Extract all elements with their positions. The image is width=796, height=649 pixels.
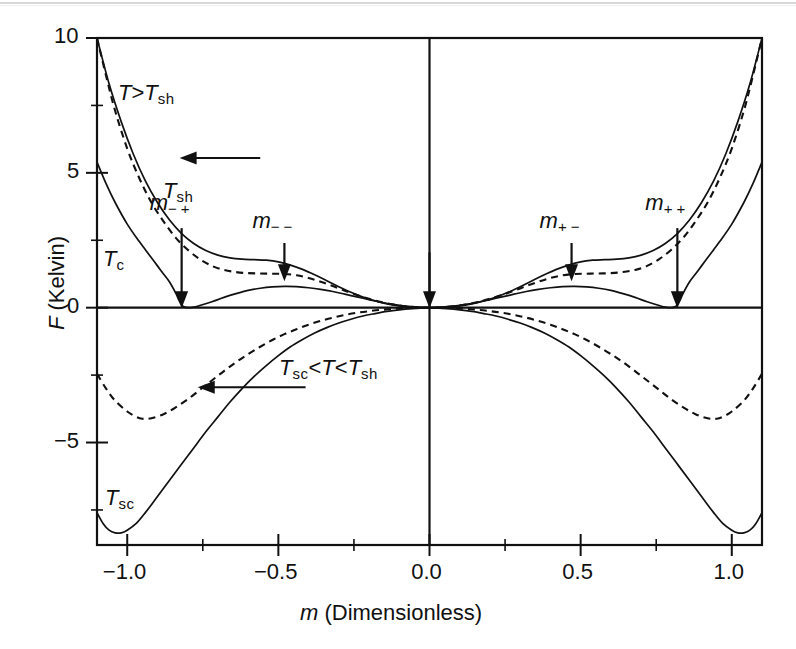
x-tick-label-0p0: 0.0	[411, 559, 442, 585]
annotation-m-minus-plus: m− +	[150, 190, 190, 217]
annotation-tc: Tc	[103, 246, 124, 273]
annotation-m-plus-plus: m+ +	[645, 190, 685, 217]
figure-panel: 1050−5−1.0−0.50.00.51.0F (Kelvin)m (Dime…	[0, 0, 796, 649]
y-axis-label: F (Kelvin)	[44, 198, 70, 368]
plot-text-layer: 1050−5−1.0−0.50.00.51.0F (Kelvin)m (Dime…	[0, 0, 796, 649]
x-tick-label-1p0: 1.0	[713, 559, 744, 585]
annotation-tsc-lt-t-lt-tsh: Tsc<T<Tsh	[279, 355, 378, 382]
annotation-t-greater-tsh: T>Tsh	[118, 80, 175, 107]
annotation-m-plus-minus: m+ −	[540, 208, 580, 235]
x-tick-label-neg0p5: −0.5	[254, 559, 297, 585]
y-tick-label-neg5: −5	[54, 428, 79, 454]
x-tick-label-0p5: 0.5	[562, 559, 593, 585]
x-tick-label-neg1p0: −1.0	[103, 559, 146, 585]
annotation-m-minus-minus: m− −	[252, 208, 292, 235]
x-axis-label: m (Dimensionless)	[300, 600, 482, 626]
y-tick-label-5: 5	[67, 158, 79, 184]
y-tick-label-10: 10	[54, 23, 78, 49]
annotation-tsc: Tsc	[105, 485, 134, 512]
